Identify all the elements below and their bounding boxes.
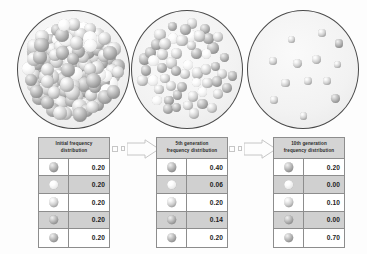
allele-bead-cell [274,194,304,211]
population-bead-icon [177,82,187,92]
allele-bead-cell [157,176,187,193]
frequency-value: 0.20 [187,234,227,241]
header-line-2: frequency distribution [276,148,342,155]
initial-dish-beads [18,11,129,128]
population-bead-icon [304,77,312,85]
allele-bead-icon [49,233,59,243]
table-row: 0.10 [274,194,344,212]
header-line-2: frequency distribution [159,148,225,155]
frequency-value: 0.10 [304,199,344,206]
population-bead-icon [180,69,190,79]
frequency-value: 0.20 [69,181,109,188]
initial-frequency-table: Initial frequency distribution 0.20 0.20… [38,137,110,248]
fifth-generation-frequency-table: 5th generation frequency distribution 0.… [156,137,228,248]
header-line-1: Initial frequency [41,141,107,148]
initial-population-dish [17,10,130,129]
population-bead-icon [137,75,148,86]
frequency-value: 0.20 [69,216,109,223]
population-bead-icon [323,77,332,86]
population-bead-icon [222,83,232,93]
arrow-dash-segment [229,146,235,152]
fifth-generation-dish [131,10,243,129]
allele-bead-icon [284,215,294,225]
population-bead-icon [213,32,223,42]
population-bead-icon [86,101,99,114]
arrow-dash-segment [121,146,125,151]
population-bead-icon [33,50,46,63]
population-bead-icon [270,96,278,104]
tenth-dish-beads [248,11,358,128]
arrow-dash-segment [238,146,242,151]
frequency-value: 0.00 [304,216,344,223]
allele-bead-cell [39,194,69,211]
population-bead-icon [41,75,54,88]
table-row: 0.20 [39,229,109,247]
table-row: 0.20 [157,194,227,212]
header-line-1: 5th generation [159,141,225,148]
population-bead-icon [141,65,152,76]
allele-bead-icon [49,180,59,190]
arrow-dash-segment [112,146,118,152]
table-row: 0.20 [39,159,109,177]
population-bead-icon [189,108,200,119]
population-bead-icon [154,85,164,95]
allele-bead-icon [284,233,294,243]
arrow-fifth-to-tenth [229,139,275,159]
population-bead-icon [112,66,124,78]
population-bead-icon [334,61,341,68]
allele-bead-icon [167,162,177,172]
initial-frequency-table-header: Initial frequency distribution [39,138,109,159]
population-bead-icon [107,85,120,98]
table-row: 0.20 [157,229,227,247]
population-bead-icon [300,112,307,119]
tenth-generation-frequency-table-header: 10th generation frequency distribution [274,138,344,159]
population-bead-icon [172,103,181,112]
population-bead-icon [220,53,230,63]
allele-bead-cell [157,159,187,176]
population-bead-icon [30,85,43,98]
frequency-value: 0.70 [304,234,344,241]
table-row: 0.40 [157,159,227,177]
allele-bead-icon [167,180,177,190]
population-bead-icon [180,24,191,35]
frequency-value: 0.20 [69,234,109,241]
population-bead-icon [281,79,290,88]
allele-bead-cell [274,176,304,193]
tenth-generation-frequency-table: 10th generation frequency distribution 0… [273,137,345,248]
population-bead-icon [318,29,326,37]
population-bead-icon [188,91,198,101]
allele-bead-icon [49,162,59,172]
population-bead-icon [168,22,177,31]
population-bead-icon [192,78,202,88]
table-row: 0.06 [157,176,227,194]
arrow-initial-to-fifth [112,139,158,159]
population-bead-icon [34,38,48,52]
allele-bead-icon [284,198,294,208]
population-bead-icon [48,86,60,98]
population-bead-icon [73,107,88,122]
frequency-value: 0.20 [304,164,344,171]
population-bead-icon [171,66,181,76]
population-bead-icon [148,55,159,66]
table-row: 0.20 [39,176,109,194]
tenth-generation-dish [247,10,359,129]
population-bead-icon [198,87,208,97]
allele-bead-icon [284,162,294,172]
population-bead-icon [86,73,101,88]
population-bead-icon [207,103,218,114]
population-bead-icon [191,48,202,59]
header-line-1: 10th generation [276,141,342,148]
population-bead-icon [194,30,205,41]
population-bead-icon [202,49,212,59]
population-bead-icon [228,71,238,81]
population-bead-icon [293,59,302,68]
population-bead-icon [269,57,277,65]
frequency-value: 0.14 [187,216,227,223]
fifth-generation-frequency-table-header: 5th generation frequency distribution [157,138,227,159]
allele-bead-cell [39,159,69,176]
allele-bead-cell [157,194,187,211]
allele-bead-cell [157,229,187,247]
frequency-value: 0.20 [69,199,109,206]
population-bead-icon [152,96,162,106]
frequency-value: 0.20 [187,199,227,206]
